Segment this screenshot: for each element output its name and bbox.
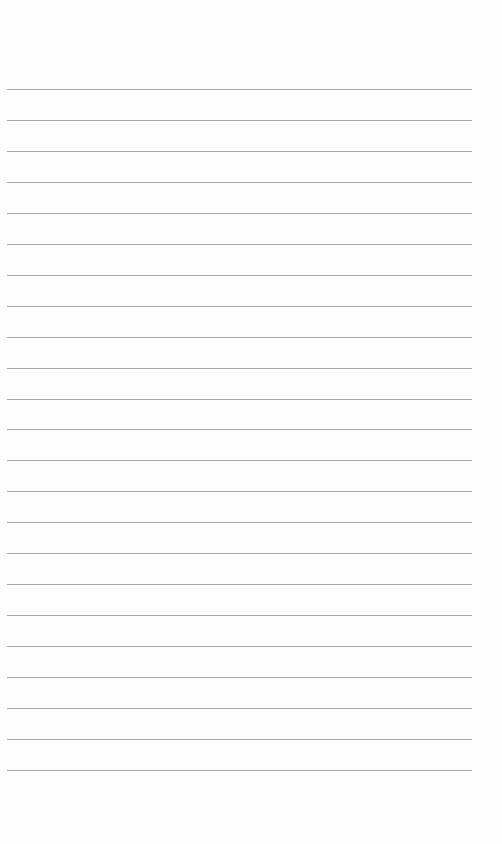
ruled-line <box>7 646 472 647</box>
ruled-line <box>7 770 472 771</box>
ruled-line <box>7 429 472 430</box>
ruled-line <box>7 120 472 121</box>
ruled-line <box>7 677 472 678</box>
ruled-line <box>7 337 472 338</box>
ruled-line <box>7 306 472 307</box>
ruled-line <box>7 522 472 523</box>
ruled-line <box>7 460 472 461</box>
ruled-line <box>7 584 472 585</box>
ruled-line <box>7 275 472 276</box>
ruled-line <box>7 491 472 492</box>
ruled-line <box>7 368 472 369</box>
ruled-line <box>7 553 472 554</box>
ruled-line <box>7 708 472 709</box>
ruled-line <box>7 399 472 400</box>
ruled-line <box>7 89 472 90</box>
ruled-line <box>7 739 472 740</box>
ruled-line <box>7 615 472 616</box>
ruled-line <box>7 151 472 152</box>
ruled-line <box>7 213 472 214</box>
lined-paper-page <box>0 0 502 844</box>
ruled-line <box>7 244 472 245</box>
ruled-line <box>7 182 472 183</box>
